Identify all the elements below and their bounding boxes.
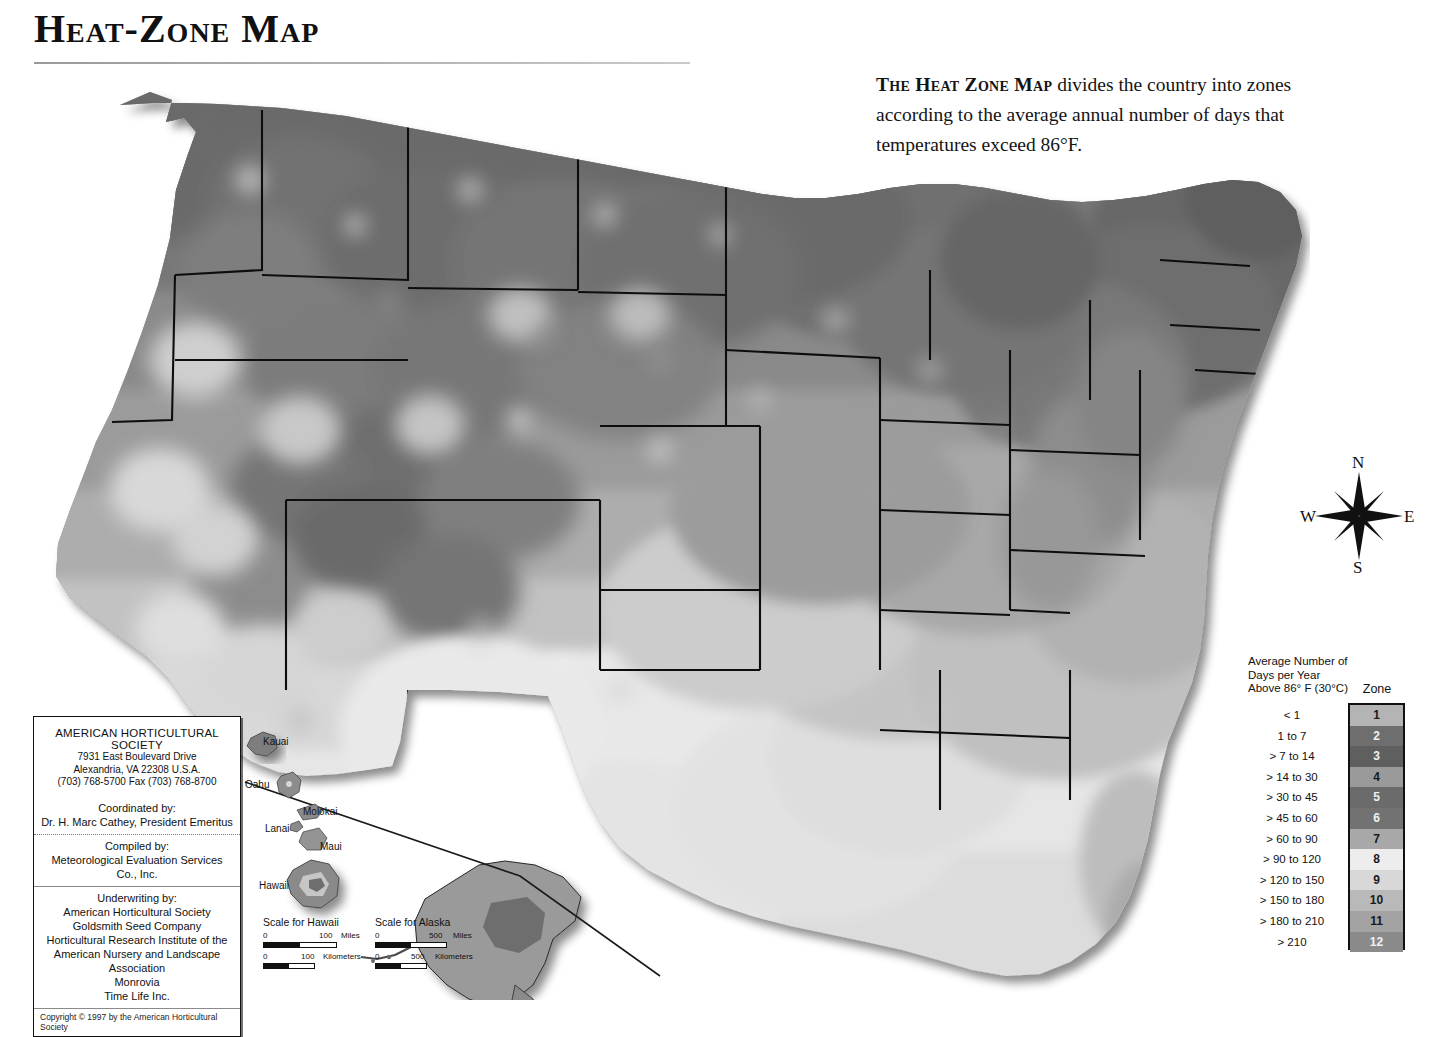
copyright-notice: Copyright © 1997 by the American Horticu… [34,1009,240,1036]
compass-west-label: W [1300,507,1316,527]
scale-miles-unit: Miles [453,931,472,940]
scale-km-unit: Kilometers [323,952,361,961]
scale-miles-hawaii: 0 100 Miles [263,931,363,948]
scale-miles-zero: 0 [375,931,379,940]
legend-swatch: 7 [1350,829,1403,850]
scale-title-alaska: Scale for Alaska [375,916,483,928]
address-line-2: Alexandria, VA 22308 U.S.A. [40,764,234,777]
label-hawaii: Hawaii [259,880,289,891]
society-name: AMERICAN HORTICULTURAL SOCIETY [40,721,234,751]
legend-swatch: 9 [1350,870,1403,891]
legend-swatch: 10 [1350,890,1403,911]
scale-km-bar-alaska [375,963,427,969]
scale-km-bar-hawaii [263,963,315,969]
scale-km-unit: Kilometers [435,952,473,961]
underwriting-by-label: Underwriting by: [40,891,234,905]
credits-box: AMERICAN HORTICULTURAL SOCIETY 7931 East… [33,716,241,1037]
underwriter-list: American Horticultural SocietyGoldsmith … [40,905,234,1003]
scale-km-max: 500 [411,952,424,961]
legend-range: > 30 to 45 [1242,787,1342,808]
legend-range: > 180 to 210 [1242,911,1342,932]
legend-swatch: 6 [1350,808,1403,829]
compiled-by-label: Compiled by: [40,839,234,853]
legend-range: > 14 to 30 [1242,767,1342,788]
compass-south-label: S [1353,558,1362,578]
label-lanai: Lanai [265,823,289,834]
scale-km-alaska: 0 500 Kilometers [375,952,483,969]
underwriter-name: Monrovia [40,975,234,989]
underwriter-name: Goldsmith Seed Company [40,919,234,933]
scale-bar-alaska: Scale for Alaska 0 500 Miles 0 500 Kilom… [375,916,483,973]
scale-title-hawaii: Scale for Hawaii [263,916,363,928]
compiled-by-name: Meteorological Evaluation Services Co., … [40,853,234,881]
legend-header: Average Number of Days per Year Above 86… [1242,655,1428,703]
coordinated-by-label: Coordinated by: [40,801,234,815]
legend-range: > 150 to 180 [1242,890,1342,911]
legend-swatch: 4 [1350,767,1403,788]
credits-org-section: AMERICAN HORTICULTURAL SOCIETY 7931 East… [34,717,240,834]
legend-swatch: 8 [1350,849,1403,870]
coordinated-by-name: Dr. H. Marc Cathey, President Emeritus [40,815,234,829]
scale-miles-zero: 0 [263,931,267,940]
credits-compiled-section: Compiled by: Meteorological Evaluation S… [34,834,240,886]
page-title: Heat-Zone Map [34,8,694,50]
legend-title: Average Number of Days per Year Above 86… [1248,655,1348,696]
legend-zone-header: Zone [1347,682,1407,696]
legend: Average Number of Days per Year Above 86… [1242,655,1428,952]
legend-range: > 210 [1242,932,1342,953]
scale-km-hawaii: 0 100 Kilometers [263,952,363,969]
scale-km-zero: 0 [375,952,379,961]
scale-km-zero: 0 [263,952,267,961]
label-maui: Maui [320,841,342,852]
legend-range: > 7 to 14 [1242,746,1342,767]
underwriter-name: American Nursery and Landscape Associati… [40,947,234,975]
legend-range-list: < 11 to 7> 7 to 14> 14 to 30> 30 to 45> … [1242,703,1342,952]
credits-underwriting-section: Underwriting by: American Horticultural … [34,886,240,1008]
legend-swatch: 3 [1350,746,1403,767]
scale-miles-bar-hawaii [263,942,337,948]
scale-miles-alaska: 0 500 Miles [375,931,483,948]
legend-swatch: 2 [1350,726,1403,747]
compass-north-label: N [1352,453,1364,473]
legend-swatch: 1 [1350,705,1403,726]
credits-copyright-section: Copyright © 1997 by the American Horticu… [34,1008,240,1036]
island-lanai [290,821,303,832]
scale-miles-max: 500 [429,931,442,940]
phone-fax: (703) 768-5700 Fax (703) 768-8700 [40,776,234,789]
scale-bar-hawaii: Scale for Hawaii 0 100 Miles 0 100 Kilom… [263,916,363,973]
label-oahu: Oahu [245,779,269,790]
legend-range: < 1 [1242,705,1342,726]
scale-km-max: 100 [301,952,314,961]
address-line-1: 7931 East Boulevard Drive [40,751,234,764]
legend-range: 1 to 7 [1242,726,1342,747]
underwriter-name: Time Life Inc. [40,989,234,1003]
legend-swatch: 12 [1350,932,1403,953]
label-molokai: Molokai [303,806,337,817]
legend-range: > 90 to 120 [1242,849,1342,870]
legend-swatch: 5 [1350,787,1403,808]
scale-miles-unit: Miles [341,931,360,940]
label-kauai: Kauai [263,736,289,747]
legend-range: > 60 to 90 [1242,829,1342,850]
scale-miles-max: 100 [319,931,332,940]
compass-rose: N S E W [1300,455,1418,580]
title-divider [34,62,690,64]
legend-swatch: 11 [1350,911,1403,932]
legend-swatch-list: 123456789101112 [1348,703,1405,950]
legend-range: > 45 to 60 [1242,808,1342,829]
legend-range: > 120 to 150 [1242,870,1342,891]
title-block: Heat-Zone Map [34,8,694,50]
underwriter-name: American Horticultural Society [40,905,234,919]
compass-east-label: E [1404,507,1414,527]
scale-miles-bar-alaska [375,942,447,948]
underwriter-name: Horticultural Research Institute of the [40,933,234,947]
